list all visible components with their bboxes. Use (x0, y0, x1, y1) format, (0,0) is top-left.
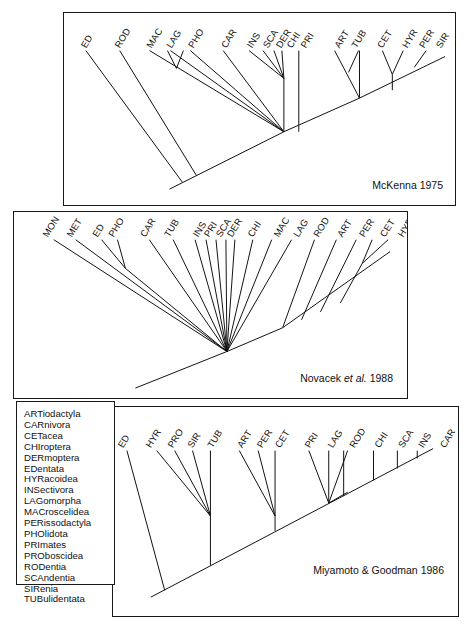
tip-label: ROD (311, 215, 332, 239)
branch-group-mckenna (86, 51, 445, 190)
tip-label: CHI (372, 430, 390, 450)
legend-item-text: LAGomorpha (24, 495, 81, 506)
tip-label: ROD (112, 26, 133, 50)
legend-item-text: DERmoptera (24, 452, 79, 463)
tip-label: INS (244, 30, 262, 49)
tip-label: SIR (185, 430, 203, 449)
tip-label: ROD (347, 426, 368, 450)
legend-item-text: PERissodactyla (24, 517, 91, 528)
tip-label: HYR (395, 216, 407, 239)
tip-label: PHO (106, 215, 126, 238)
legend-item-text: CHIroptera (24, 441, 71, 452)
tip-label: CHI (245, 219, 263, 239)
tip-label: LAG (164, 28, 184, 50)
tip-label: PRI (298, 30, 316, 49)
taxon-labels-miyamoto: ED HYR PRO SIR TUB ART PER CET PRI LAG R… (115, 426, 458, 450)
legend-item-text: SIRenia (24, 583, 58, 594)
tip-label: MAC (271, 215, 292, 239)
legend-item-text: RODentia (24, 561, 66, 572)
tip-label: PRO (165, 426, 185, 449)
tip-label: LAG (291, 217, 311, 239)
tip-label: MET (64, 216, 84, 239)
panel-miyamoto-goodman-1986: ED HYR PRO SIR TUB ART PER CET PRI LAG R… (112, 406, 459, 617)
caption-italic: et al. (344, 372, 367, 384)
caption-text: McKenna 1975 (372, 179, 443, 191)
tip-label: PER (417, 27, 437, 50)
legend-item-text: HYRacoidea (24, 473, 78, 484)
caption-text: Miyamoto & Goodman 1986 (313, 564, 444, 576)
cladogram-novacek: MON MET ED PHO CAR TUB INS PRI SCA DER C… (14, 212, 407, 398)
caption-tail: 1988 (367, 372, 393, 384)
cladogram-mckenna: ED ROD MAC LAG PHO CAR INS SCA DER CHI P… (64, 13, 455, 205)
taxon-labels-novacek: MON MET ED PHO CAR TUB INS PRI SCA DER C… (40, 214, 407, 239)
tip-label: CET (375, 28, 395, 50)
legend-item-text: MACroscelidea (24, 506, 89, 517)
legend-item: TUBulidentata (24, 594, 114, 605)
tip-label: TUB (205, 428, 224, 450)
tip-label: CET (272, 428, 292, 450)
panel-novacek-1988: MON MET ED PHO CAR TUB INS PRI SCA DER C… (13, 211, 408, 399)
legend-item-text: SCAndentia (24, 572, 75, 583)
tip-label: PER (254, 427, 274, 450)
tip-label: PER (357, 216, 377, 239)
tip-label: ART (335, 217, 355, 239)
tip-label: ART (332, 28, 351, 50)
cladogram-miyamoto: ED HYR PRO SIR TUB ART PER CET PRI LAG R… (113, 407, 458, 616)
branch-group-novacek (54, 240, 390, 388)
legend-item-text: CETacea (24, 430, 63, 441)
panel-caption: McKenna 1975 (372, 179, 443, 191)
tip-label: TUB (349, 28, 369, 50)
tip-label: LAG (325, 428, 344, 450)
tip-label: ED (78, 33, 94, 50)
tip-label: ART (235, 428, 254, 450)
tip-label: PRO (452, 26, 455, 49)
tip-label: CAR (219, 27, 239, 50)
tip-label: CAR (437, 427, 457, 450)
tip-label: HYR (400, 27, 420, 50)
taxon-labels-mckenna: ED ROD MAC LAG PHO CAR INS SCA DER CHI P… (78, 26, 455, 50)
tip-label: INS (416, 430, 434, 449)
legend-box: ARTiodactyla CARnivora CETacea CHIropter… (16, 401, 115, 585)
tip-label: MAC (144, 26, 165, 50)
tip-label: MON (40, 214, 61, 239)
caption-text: Novacek (300, 372, 344, 384)
tip-label: HYR (143, 427, 163, 450)
tip-label: CAR (138, 216, 158, 239)
legend-item-text: ARTiodactyla (24, 408, 81, 419)
tip-label: TUB (162, 217, 182, 239)
panel-caption: Novacek et al. 1988 (300, 372, 393, 384)
figure-root: ED ROD MAC LAG PHO CAR INS SCA DER CHI P… (0, 0, 469, 629)
legend-item-text: CARnivora (24, 419, 70, 430)
panel-mckenna-1975: ED ROD MAC LAG PHO CAR INS SCA DER CHI P… (63, 12, 456, 206)
tip-label: ED (115, 433, 131, 450)
tip-label: PHO (186, 26, 206, 49)
legend-item-text: PROboscidea (24, 550, 83, 561)
tip-label: CET (377, 217, 397, 239)
tip-label: SCA (396, 427, 416, 450)
panel-caption: Miyamoto & Goodman 1986 (313, 564, 444, 576)
legend-item-text: EDentata (24, 463, 64, 474)
legend-item-text: PRImates (24, 539, 66, 550)
legend-item-text: INSectivora (24, 484, 74, 495)
tip-label: ED (90, 222, 106, 239)
legend-item-text: TUBulidentata (24, 593, 85, 604)
legend-item-text: PHOlidota (24, 528, 68, 539)
tip-label: PRI (302, 430, 320, 449)
legend-entry-list: ARTiodactyla CARnivora CETacea CHIropter… (17, 402, 114, 605)
